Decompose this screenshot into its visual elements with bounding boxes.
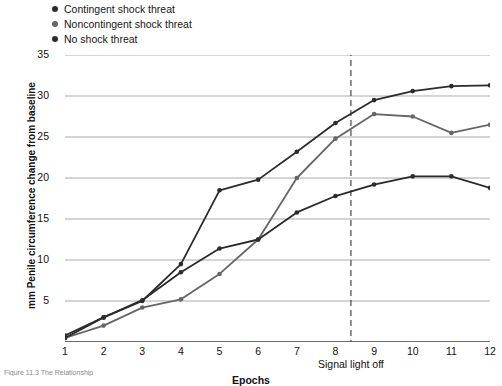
- x-tick-label: 4: [170, 345, 192, 357]
- data-point: [101, 315, 106, 320]
- data-point: [217, 272, 222, 277]
- x-tick-label: 6: [247, 345, 269, 357]
- data-point: [295, 149, 300, 154]
- data-point: [217, 188, 222, 193]
- x-tick-label: 9: [363, 345, 385, 357]
- data-point: [449, 131, 454, 136]
- data-point: [372, 182, 377, 187]
- y-tick-label: 20: [27, 171, 49, 183]
- y-axis-title: mm Penile circumference change from base…: [26, 71, 37, 321]
- data-point: [333, 121, 338, 126]
- data-point: [372, 112, 377, 117]
- data-point: [295, 176, 300, 181]
- data-point: [179, 270, 184, 275]
- chart-legend: Contingent shock threat Noncontingent sh…: [52, 2, 352, 47]
- data-point: [488, 186, 490, 191]
- x-tick-label: 3: [131, 345, 153, 357]
- data-point: [372, 98, 377, 103]
- figure-caption: Figure 11.3 The Relationship: [4, 369, 304, 376]
- legend-marker-icon: [52, 36, 58, 42]
- legend-item-label: Contingent shock threat: [64, 3, 175, 15]
- x-tick-label: 10: [402, 345, 424, 357]
- data-point: [333, 194, 338, 199]
- y-tick-label: 25: [27, 130, 49, 142]
- legend-item-label: Noncontingent shock threat: [64, 18, 192, 30]
- legend-item-no-shock-threat: No shock threat: [52, 32, 352, 46]
- x-tick-label: 11: [440, 345, 462, 357]
- chart-svg: [65, 55, 490, 342]
- data-point: [179, 262, 184, 267]
- gridlines: [65, 55, 490, 301]
- signal-light-off-annotation: Signal light off: [318, 358, 384, 370]
- x-tick-label: 7: [286, 345, 308, 357]
- data-point: [179, 297, 184, 302]
- x-tick-label: 8: [324, 345, 346, 357]
- data-point: [488, 122, 490, 127]
- data-point: [410, 89, 415, 94]
- data-point: [140, 305, 145, 310]
- x-tick-label: 5: [209, 345, 231, 357]
- data-point: [217, 246, 222, 251]
- y-tick-label: 30: [27, 89, 49, 101]
- data-point: [101, 323, 106, 328]
- legend-marker-icon: [52, 6, 58, 12]
- data-point: [449, 84, 454, 89]
- data-point: [140, 298, 145, 303]
- series-3: [65, 174, 490, 340]
- plot-area: [65, 55, 490, 342]
- y-tick-label: 15: [27, 212, 49, 224]
- y-tick-label: 10: [27, 253, 49, 265]
- data-point: [256, 237, 261, 242]
- legend-item-label: No shock threat: [64, 33, 138, 45]
- data-point: [333, 136, 338, 141]
- data-point: [488, 83, 490, 88]
- y-tick-label: 5: [27, 294, 49, 306]
- x-tick-label: 2: [93, 345, 115, 357]
- data-point: [449, 174, 454, 179]
- data-point: [410, 174, 415, 179]
- data-point: [295, 210, 300, 215]
- data-point: [410, 114, 415, 119]
- x-tick-label: 12: [479, 345, 501, 357]
- y-tick-label: 35: [27, 48, 49, 60]
- legend-item-noncontingent-shock-threat: Noncontingent shock threat: [52, 17, 352, 31]
- x-tick-label: 1: [54, 345, 76, 357]
- legend-item-contingent-shock-threat: Contingent shock threat: [52, 2, 352, 16]
- data-point: [256, 177, 261, 182]
- data-series-group: [65, 83, 490, 340]
- legend-marker-icon: [52, 21, 58, 27]
